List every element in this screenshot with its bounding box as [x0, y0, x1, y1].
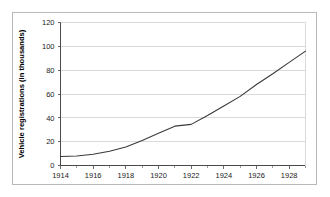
- x-tick-label: 1918: [117, 171, 134, 180]
- y-tick-label: 40: [46, 114, 54, 123]
- data-series-line: [61, 51, 306, 156]
- x-tick-label: 1916: [85, 171, 102, 180]
- x-tick-label: 1922: [183, 171, 200, 180]
- x-tick-label: 1914: [52, 171, 69, 180]
- line-chart: 020406080100120 191419161918192019221924…: [0, 0, 330, 197]
- x-tick-label: 1920: [150, 171, 167, 180]
- x-axis-tick-labels: 19141916191819201922192419261928: [52, 171, 297, 180]
- y-tick-label: 0: [50, 161, 54, 170]
- x-tick-label: 1926: [248, 171, 265, 180]
- y-tick-label: 80: [46, 66, 54, 75]
- y-tick-label: 60: [46, 90, 54, 99]
- y-axis-title: Vehicle registrations (in thousands): [17, 29, 26, 158]
- x-tick-label: 1924: [215, 171, 232, 180]
- gridlines-group: [61, 23, 306, 142]
- y-tick-label: 120: [42, 18, 55, 27]
- x-tick-label: 1928: [281, 171, 298, 180]
- chart-figure: 020406080100120 191419161918192019221924…: [0, 0, 330, 197]
- y-axis-tick-labels: 020406080100120: [42, 18, 55, 170]
- y-tick-label: 100: [42, 42, 55, 51]
- tick-marks-group: [58, 23, 306, 169]
- y-tick-label: 20: [46, 137, 54, 146]
